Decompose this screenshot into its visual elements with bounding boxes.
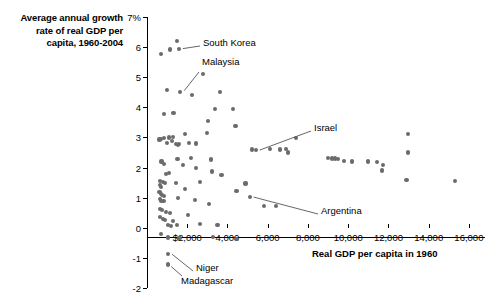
data-point bbox=[380, 168, 384, 172]
data-point bbox=[274, 204, 278, 208]
x-tick-label-16000: 16,000 bbox=[454, 232, 483, 243]
x-tick-12000 bbox=[388, 224, 389, 228]
data-point bbox=[165, 141, 169, 145]
y-tick-label-5: 5 bbox=[136, 72, 141, 83]
annotation-label-argentina: Argentina bbox=[321, 205, 362, 216]
data-point bbox=[366, 159, 370, 163]
y-tick-3 bbox=[143, 137, 147, 138]
x-tick-label-10000: 10,000 bbox=[334, 232, 363, 243]
chart-title: Average annual growth rate of real GDP p… bbox=[6, 12, 123, 50]
y-tick-2 bbox=[143, 168, 147, 169]
data-point bbox=[286, 150, 290, 154]
data-point bbox=[161, 199, 165, 203]
annotation-label-israel: Israel bbox=[314, 122, 337, 133]
annotation-label-niger: Niger bbox=[196, 262, 219, 273]
x-tick-label-6000: 6,000 bbox=[256, 232, 280, 243]
y-tick-0 bbox=[143, 228, 147, 229]
data-point bbox=[167, 171, 171, 175]
y-tick-7 bbox=[143, 17, 147, 18]
annotation-label-malaysia: Malaysia bbox=[202, 56, 240, 67]
data-point bbox=[206, 119, 210, 123]
x-tick-label-8000: 8,000 bbox=[296, 232, 320, 243]
y-tick-label-4: 4 bbox=[136, 102, 141, 113]
y-tick-4 bbox=[143, 107, 147, 108]
data-point bbox=[262, 204, 266, 208]
data-point bbox=[159, 52, 163, 56]
data-point bbox=[210, 169, 214, 173]
data-point bbox=[181, 163, 185, 167]
data-point bbox=[171, 111, 175, 115]
data-point bbox=[190, 93, 194, 97]
data-point bbox=[381, 163, 385, 167]
data-point bbox=[166, 252, 170, 256]
y-tick-label-6: 6 bbox=[136, 42, 141, 53]
data-point bbox=[233, 124, 237, 128]
data-point bbox=[163, 181, 167, 185]
annotation-label-south-korea: South Korea bbox=[203, 37, 256, 48]
data-point bbox=[186, 213, 190, 217]
y-tick-label--1: -1 bbox=[133, 252, 141, 263]
data-point bbox=[175, 223, 179, 227]
chart-title-line-2: rate of real GDP per bbox=[6, 25, 123, 38]
y-tick-label-0: 0 bbox=[136, 222, 141, 233]
y-tick-label-1: 1 bbox=[136, 192, 141, 203]
data-point bbox=[215, 223, 219, 227]
data-point bbox=[183, 132, 187, 136]
data-point bbox=[174, 181, 178, 185]
data-point bbox=[178, 90, 182, 94]
data-point bbox=[207, 202, 211, 206]
data-point bbox=[169, 224, 173, 228]
data-point bbox=[234, 237, 238, 241]
data-point bbox=[194, 166, 198, 170]
y-tick-5 bbox=[143, 77, 147, 78]
data-point bbox=[166, 235, 170, 239]
data-point bbox=[406, 150, 410, 154]
data-point bbox=[209, 157, 213, 161]
data-point bbox=[205, 131, 209, 135]
data-point bbox=[177, 47, 181, 51]
x-tick-14000 bbox=[429, 224, 430, 228]
data-point bbox=[165, 88, 169, 92]
x-tick-2000 bbox=[187, 224, 188, 228]
data-point bbox=[175, 157, 179, 161]
data-point bbox=[183, 187, 187, 191]
data-point bbox=[254, 148, 258, 152]
y-tick-label--2: -2 bbox=[133, 283, 141, 294]
chart-title-line-1: Average annual growth bbox=[6, 12, 123, 25]
data-point bbox=[159, 185, 163, 189]
x-tick-4000 bbox=[227, 224, 228, 228]
chart-title-line-3: capita, 1960-2004 bbox=[6, 37, 123, 50]
data-point bbox=[404, 178, 408, 182]
x-tick-6000 bbox=[268, 224, 269, 228]
y-tick-1 bbox=[143, 198, 147, 199]
data-point bbox=[336, 157, 340, 161]
data-point bbox=[406, 132, 410, 136]
data-point bbox=[248, 195, 252, 199]
data-point bbox=[250, 147, 254, 151]
data-point bbox=[166, 262, 170, 266]
y-tick-label-7: 7% bbox=[127, 12, 141, 23]
data-point bbox=[177, 142, 181, 146]
data-point bbox=[168, 47, 172, 51]
data-point bbox=[268, 147, 272, 151]
data-point bbox=[187, 141, 191, 145]
data-point bbox=[231, 107, 235, 111]
x-tick-10000 bbox=[348, 224, 349, 228]
y-tick--1 bbox=[143, 258, 147, 259]
annotation-label-madagascar: Madagascar bbox=[181, 275, 233, 286]
y-tick--2 bbox=[143, 288, 147, 289]
data-point bbox=[213, 107, 217, 111]
data-point bbox=[234, 189, 238, 193]
data-point bbox=[218, 90, 222, 94]
data-point bbox=[453, 179, 457, 183]
y-tick-label-3: 3 bbox=[136, 132, 141, 143]
data-point bbox=[162, 194, 166, 198]
data-point bbox=[159, 232, 163, 236]
data-point bbox=[189, 156, 193, 160]
data-point bbox=[375, 160, 379, 164]
x-tick-16000 bbox=[469, 224, 470, 228]
data-point bbox=[194, 141, 198, 145]
data-point bbox=[168, 211, 172, 215]
data-point bbox=[162, 162, 166, 166]
scatter-chart-figure: Average annual growth rate of real GDP p… bbox=[0, 0, 498, 307]
